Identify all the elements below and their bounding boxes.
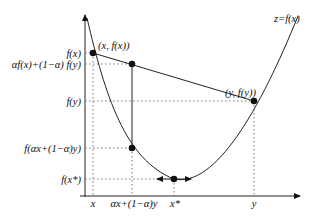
dotted-guides [85,53,254,196]
point-minimum [171,176,178,183]
xlabel-x: x [90,198,96,209]
ylabel-fmix: f(αx+(1−α)y) [24,143,81,155]
label-point-x: (x, f(x)) [98,40,130,52]
xlabel-mix: αx+(1−α)y [111,198,158,210]
ylabel-fy: f(y) [66,96,81,108]
point-y-fy [251,98,258,105]
ylabel-fmin: f(x*) [61,174,81,186]
diagram-canvas: (x, f(x)) (y, f(y)) z=f(x) f(x) αf(x)+(1… [0,0,319,217]
ylabel-chord: αf(x)+(1−α) f(y) [12,59,82,71]
xlabel-y: y [251,198,257,209]
label-point-y: (y, f(y)) [225,87,256,99]
label-curve: z=f(x) [273,13,300,25]
convexity-diagram: (x, f(x)) (y, f(y)) z=f(x) f(x) αf(x)+(1… [0,0,319,217]
point-x-fx [90,50,97,57]
point-curve-mix [129,145,136,152]
point-chord-mix [129,61,136,68]
xlabel-xstar: x* [169,198,181,209]
